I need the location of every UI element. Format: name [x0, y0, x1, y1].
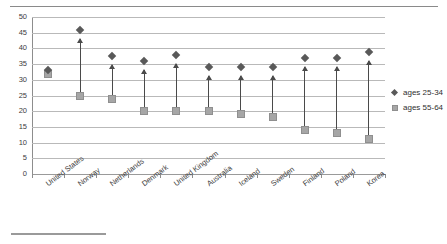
y-axis-tick-label: 5: [0, 154, 27, 162]
data-point-ages-55-64[interactable]: [333, 129, 341, 137]
connector-arrowhead-icon: [238, 75, 244, 80]
chart-figure: ages 25-34 ages 55-64 051015202530354045…: [0, 0, 447, 244]
connector-arrow-line: [80, 39, 81, 96]
y-axis-tick-label: 45: [0, 29, 27, 37]
data-point-ages-55-64[interactable]: [269, 113, 277, 121]
top-divider-rule: [10, 6, 438, 7]
legend-label: ages 55-64: [403, 101, 443, 114]
legend-label: ages 25-34: [403, 86, 443, 99]
connector-arrow-line: [176, 64, 177, 112]
y-axis-tick-label: 15: [0, 123, 27, 131]
connector-arrowhead-icon: [302, 66, 308, 71]
connector-arrow-line: [240, 76, 241, 114]
gridline: [32, 127, 385, 128]
y-axis-tick-label: 0: [0, 170, 27, 178]
legend-item-ages-25-34[interactable]: ages 25-34: [392, 86, 447, 101]
y-axis-tick-label: 30: [0, 76, 27, 84]
x-axis-tick: [32, 174, 33, 178]
gridline: [32, 143, 385, 144]
y-axis-tick-label: 20: [0, 107, 27, 115]
data-point-ages-55-64[interactable]: [172, 107, 180, 115]
gridline: [32, 48, 385, 49]
gridline: [32, 33, 385, 34]
data-point-ages-55-64[interactable]: [140, 107, 148, 115]
plot-area: [32, 17, 385, 174]
data-point-ages-25-34[interactable]: [301, 54, 309, 62]
connector-arrowhead-icon: [77, 38, 83, 43]
data-point-ages-55-64[interactable]: [237, 110, 245, 118]
connector-arrowhead-icon: [206, 75, 212, 80]
connector-arrowhead-icon: [173, 63, 179, 68]
data-point-ages-55-64[interactable]: [108, 95, 116, 103]
connector-arrowhead-icon: [270, 75, 276, 80]
connector-arrow-line: [336, 67, 337, 133]
connector-arrowhead-icon: [366, 60, 372, 65]
data-point-ages-25-34[interactable]: [108, 52, 116, 60]
data-point-ages-25-34[interactable]: [333, 54, 341, 62]
y-axis-tick-label: 10: [0, 139, 27, 147]
connector-arrow-line: [112, 65, 113, 98]
footnote-separator-rule: [11, 233, 106, 235]
connector-arrow-line: [304, 67, 305, 130]
connector-arrowhead-icon: [109, 64, 115, 69]
connector-arrowhead-icon: [141, 69, 147, 74]
y-axis-tick-label: 25: [0, 92, 27, 100]
chart-legend: ages 25-34 ages 55-64: [392, 86, 447, 116]
data-point-ages-25-34[interactable]: [204, 63, 212, 71]
connector-arrow-line: [272, 76, 273, 117]
y-axis-tick-label: 35: [0, 60, 27, 68]
diamond-marker-icon: [391, 89, 398, 96]
connector-arrowhead-icon: [334, 66, 340, 71]
gridline: [32, 17, 385, 18]
connector-arrow-line: [208, 76, 209, 111]
square-marker-icon: [392, 105, 398, 111]
connector-arrow-line: [368, 61, 369, 140]
connector-arrow-line: [144, 70, 145, 111]
y-axis-tick-label: 50: [0, 13, 27, 21]
y-axis-tick-label: 40: [0, 44, 27, 52]
data-point-ages-55-64[interactable]: [205, 107, 213, 115]
data-point-ages-55-64[interactable]: [301, 126, 309, 134]
data-point-ages-25-34[interactable]: [172, 50, 180, 58]
data-point-ages-55-64[interactable]: [365, 135, 373, 143]
data-point-ages-55-64[interactable]: [76, 92, 84, 100]
legend-item-ages-55-64[interactable]: ages 55-64: [392, 101, 447, 116]
